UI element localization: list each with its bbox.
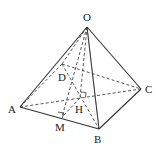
label-H: H — [75, 103, 83, 115]
pyramid-diagram: O D C A H M B — [0, 0, 164, 151]
edge-OD — [62, 27, 87, 64]
edge-OB — [87, 27, 99, 129]
label-D: D — [58, 71, 66, 83]
edge-AD — [20, 64, 62, 107]
label-O: O — [83, 11, 91, 23]
height-OH — [80, 27, 87, 98]
right-angle-H-icon — [81, 92, 87, 98]
edge-BC — [99, 89, 141, 129]
edge-DC — [62, 64, 141, 89]
label-A: A — [8, 103, 16, 115]
label-M: M — [55, 121, 65, 133]
edge-OC — [87, 27, 141, 89]
edge-OA — [20, 27, 87, 107]
label-B: B — [94, 133, 101, 145]
label-C: C — [145, 83, 152, 95]
